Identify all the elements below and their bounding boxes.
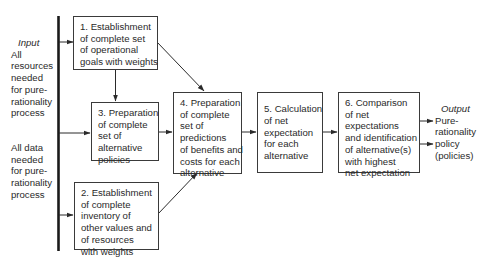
output-label: Output Pure- rationality policy (policie… — [435, 103, 476, 162]
box-text-line: of net — [264, 115, 322, 127]
input-text-line: process — [11, 107, 53, 119]
box-text-line: costs for each — [180, 156, 241, 168]
input-header: Input — [11, 37, 53, 49]
arrow-box-2-to-box-4 — [158, 173, 197, 214]
box-text-line: of operational — [80, 44, 157, 56]
box-text-line: inventory of — [81, 210, 158, 222]
box-text-line: 3. Preparation — [98, 107, 158, 119]
box-text-line: of complete — [81, 199, 158, 211]
input-text-line: needed — [11, 154, 52, 166]
box-text-line: of complete set — [80, 33, 157, 45]
output-text-line: (policies) — [435, 150, 476, 162]
box-text-line: 1. Establishment — [80, 21, 157, 33]
output-text-line: rationality — [435, 126, 476, 138]
box-text-line: for each — [264, 138, 322, 150]
box-text-line: set of — [180, 120, 241, 132]
box-text-line: of complete — [180, 109, 241, 121]
output-text-line: policy — [435, 138, 476, 150]
input-text-line: resources — [11, 60, 53, 72]
input-text-line: rationality — [11, 177, 52, 189]
input-text-line: rationality — [11, 96, 53, 108]
box-text-line: net expectation — [345, 167, 419, 179]
output-text-line: Pure- — [435, 115, 476, 127]
pure-rationality-flow-diagram: Input All resources needed for pure- rat… — [0, 0, 492, 261]
box-text-line: 6. Comparison — [345, 97, 419, 109]
box-text-line: of net — [345, 109, 419, 121]
box-text-line: predictions — [180, 132, 241, 144]
input-text-line: needed — [11, 72, 53, 84]
box-3-alternative-policies: 3. Preparation of complete set of altern… — [91, 102, 159, 161]
box-text-line: policies — [98, 154, 158, 166]
box-4-predictions: 4. Preparation of complete set of predic… — [173, 92, 242, 174]
arrow-box-1-to-box-4 — [157, 42, 204, 91]
box-6-comparison: 6. Comparison of net expectations and id… — [338, 92, 420, 173]
box-text-line: alternative — [98, 142, 158, 154]
box-text-line: expectations — [345, 120, 419, 132]
input-text-line: for pure- — [11, 165, 52, 177]
box-text-line: alternative — [180, 167, 241, 179]
box-text-line: with weights — [81, 246, 158, 258]
box-text-line: expectation — [264, 127, 322, 139]
input-resources-label: Input All resources needed for pure- rat… — [11, 37, 53, 119]
box-text-line: with highest — [345, 156, 419, 168]
box-text-line: of resources — [81, 234, 158, 246]
input-text-line: All data — [11, 142, 52, 154]
box-text-line: alternative — [264, 150, 322, 162]
box-2-inventory: 2. Establishment of complete inventory o… — [74, 182, 159, 250]
input-text-line: process — [11, 189, 52, 201]
box-text-line: other values and — [81, 222, 158, 234]
input-text-line: All — [11, 49, 53, 61]
box-text-line: and identification — [345, 132, 419, 144]
box-text-line: of complete — [98, 119, 158, 131]
input-data-label: All data needed for pure- rationality pr… — [11, 142, 52, 201]
box-text-line: of alternative(s) — [345, 144, 419, 156]
output-header: Output — [435, 103, 476, 115]
box-1-goals: 1. Establishment of complete set of oper… — [73, 16, 158, 70]
box-text-line: 4. Preparation — [180, 97, 241, 109]
box-text-line: of benefits and — [180, 144, 241, 156]
box-text-line: 5. Calculation — [264, 103, 322, 115]
input-text-line: for pure- — [11, 84, 53, 96]
box-text-line: 2. Establishment — [81, 187, 158, 199]
box-text-line: goals with weights — [80, 56, 157, 68]
box-5-net-expectation: 5. Calculation of net expectation for ea… — [257, 92, 323, 173]
box-text-line: set of — [98, 130, 158, 142]
